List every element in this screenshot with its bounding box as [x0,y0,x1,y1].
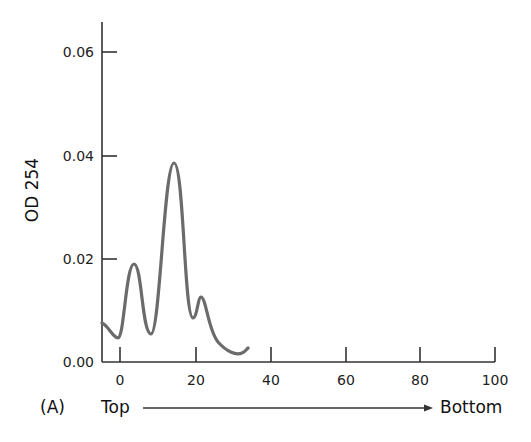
y-axis-title: OD 254 [22,158,42,222]
svg-text:0.04: 0.04 [63,148,94,164]
y-ticks [102,52,117,259]
arrow-head-icon [424,405,433,412]
svg-text:20: 20 [187,372,205,388]
svg-text:0.00: 0.00 [63,354,94,370]
svg-text:0: 0 [116,372,125,388]
x-ticks [120,347,495,362]
svg-text:0.02: 0.02 [63,251,94,267]
svg-text:60: 60 [337,372,355,388]
x-tick-labels: 0 20 40 60 80 100 [116,372,509,388]
chart-canvas: 0.06 0.04 0.02 0.00 0 20 40 60 80 100 OD… [0,0,531,442]
svg-text:40: 40 [262,372,280,388]
direction-start-label: Top [101,397,130,417]
direction-end-label: Bottom [440,397,502,417]
y-tick-labels: 0.06 0.04 0.02 0.00 [63,44,94,370]
svg-text:0.06: 0.06 [63,44,94,60]
panel-label: (A) [40,397,65,417]
od254-curve [102,163,248,354]
svg-text:100: 100 [482,372,509,388]
svg-text:80: 80 [411,372,429,388]
